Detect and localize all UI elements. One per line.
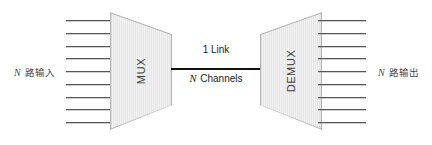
output-side-label-text: 路输出 (386, 67, 419, 78)
demux-block-outline (260, 12, 322, 130)
output-line (318, 33, 366, 34)
input-line (66, 122, 114, 123)
output-line (318, 46, 366, 47)
output-line (318, 71, 366, 72)
output-line (318, 20, 366, 21)
input-line (66, 109, 114, 110)
output-line (318, 122, 366, 123)
input-side-label-text: 路输入 (22, 67, 55, 78)
link-bottom-label: N Channels (179, 73, 253, 84)
output-line (318, 58, 366, 59)
link-top-label: 1 Link (184, 44, 248, 55)
link-bottom-label-text: Channels (197, 73, 242, 84)
mux-block (110, 12, 172, 130)
output-line-bundle (318, 0, 366, 145)
input-line (66, 97, 114, 98)
output-line (318, 84, 366, 85)
link-line (171, 68, 261, 70)
mux-block-outline (110, 12, 172, 130)
input-side-label: N 路输入 (14, 65, 55, 79)
output-line (318, 109, 366, 110)
input-line (66, 33, 114, 34)
diagram-stage: N 路输入 MUX 1 Link N Channels (0, 0, 432, 145)
input-line (66, 84, 114, 85)
input-line (66, 20, 114, 21)
input-line-bundle (66, 0, 114, 145)
input-line (66, 58, 114, 59)
input-line (66, 46, 114, 47)
input-side-label-variable: N (14, 67, 22, 78)
mux-demux-diagram: N 路输入 MUX 1 Link N Channels (0, 0, 432, 145)
input-line (66, 71, 114, 72)
output-side-label-variable: N (378, 67, 386, 78)
output-line (318, 97, 366, 98)
demux-block (260, 12, 322, 130)
output-side-label: N 路输出 (378, 65, 419, 79)
